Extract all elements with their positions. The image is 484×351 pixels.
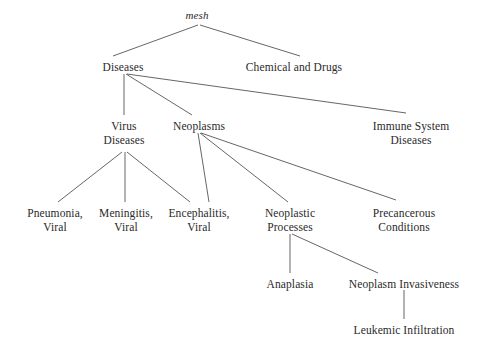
tree-node-label: Conditions xyxy=(373,221,436,235)
tree-node-virus-diseases[interactable]: VirusDiseases xyxy=(103,120,144,147)
tree-node-label: Diseases xyxy=(103,134,144,148)
tree-node-immune-system-diseases[interactable]: Immune SystemDiseases xyxy=(373,120,449,147)
tree-node-label: Neoplastic xyxy=(265,207,315,221)
tree-node-label: Neoplasms xyxy=(173,120,225,134)
tree-node-label: Viral xyxy=(168,221,229,235)
tree-node-label: Chemical and Drugs xyxy=(246,61,342,75)
tree-node-neoplasm-invasiveness[interactable]: Neoplasm Invasiveness xyxy=(349,278,459,292)
tree-node-anaplasia[interactable]: Anaplasia xyxy=(267,278,314,292)
tree-node-label: Encephalitis, xyxy=(168,207,229,221)
tree-node-label: Meningitis, xyxy=(99,207,153,221)
tree-node-meningitis-viral[interactable]: Meningitis,Viral xyxy=(99,207,153,234)
tree-node-chemical-and-drugs[interactable]: Chemical and Drugs xyxy=(246,61,342,75)
tree-edge-neoplastic-processes-to-neoplasm-invasiveness xyxy=(292,234,378,273)
tree-node-label: Immune System xyxy=(373,120,449,134)
tree-node-neoplastic-processes[interactable]: NeoplasticProcesses xyxy=(265,207,315,234)
tree-node-label: Precancerous xyxy=(373,207,436,221)
tree-node-label: Viral xyxy=(27,221,83,235)
tree-edge-diseases-to-immune-system-diseases xyxy=(127,74,406,113)
tree-node-diseases[interactable]: Diseases xyxy=(102,61,143,75)
tree-node-leukemic-infiltration[interactable]: Leukemic Infiltration xyxy=(354,324,455,338)
tree-edge-virus-diseases-to-encephalitis-viral xyxy=(127,152,190,202)
tree-node-label: Viral xyxy=(99,221,153,235)
tree-edge-neoplasms-to-encephalitis-viral xyxy=(198,133,209,202)
tree-node-label: Processes xyxy=(265,221,315,235)
tree-edge-mesh-to-chemical-and-drugs xyxy=(200,25,300,56)
tree-edges-layer xyxy=(0,0,484,351)
tree-node-label: Leukemic Infiltration xyxy=(354,324,455,338)
tree-node-label: Neoplasm Invasiveness xyxy=(349,278,459,292)
tree-node-label: Anaplasia xyxy=(267,278,314,292)
tree-edge-neoplasms-to-precancerous-conditions xyxy=(201,133,396,200)
tree-node-label: mesh xyxy=(185,9,208,23)
tree-node-label: Pneumonia, xyxy=(27,207,83,221)
mesh-hierarchy-diagram: meshDiseasesChemical and DrugsVirusDisea… xyxy=(0,0,484,351)
tree-edge-neoplasms-to-neoplastic-processes xyxy=(200,133,288,202)
tree-node-pneumonia-viral[interactable]: Pneumonia,Viral xyxy=(27,207,83,234)
tree-node-label: Diseases xyxy=(102,61,143,75)
tree-node-mesh[interactable]: mesh xyxy=(185,9,208,23)
tree-node-label: Diseases xyxy=(373,134,449,148)
tree-node-label: Virus xyxy=(103,120,144,134)
tree-edge-virus-diseases-to-pneumonia-viral xyxy=(58,152,122,202)
tree-node-neoplasms[interactable]: Neoplasms xyxy=(173,120,225,134)
tree-node-encephalitis-viral[interactable]: Encephalitis,Viral xyxy=(168,207,229,234)
tree-edge-diseases-to-neoplasms xyxy=(126,74,192,115)
tree-edge-mesh-to-diseases xyxy=(113,25,198,56)
tree-node-precancerous-conditions[interactable]: PrecancerousConditions xyxy=(373,207,436,234)
